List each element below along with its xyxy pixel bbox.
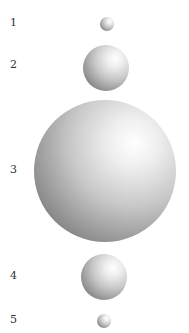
sphere-5 [97,314,111,328]
label-5: 5 [10,314,20,326]
sphere-1 [100,17,114,31]
sphere-4 [81,254,127,300]
label-2: 2 [10,59,20,71]
label-4: 4 [10,270,20,282]
sphere-3 [34,100,176,242]
label-3: 3 [10,164,20,176]
sphere-2 [83,45,129,91]
label-1: 1 [10,17,20,29]
